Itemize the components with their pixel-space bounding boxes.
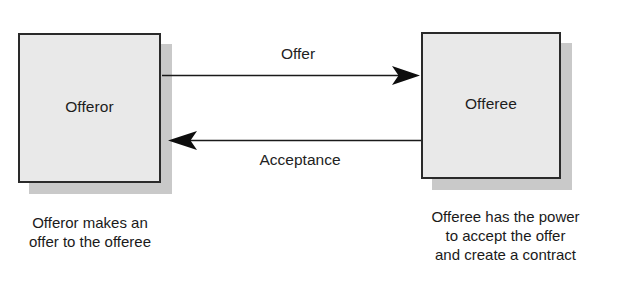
acceptance-arrow-head <box>168 131 197 150</box>
acceptance-arrow <box>168 131 421 150</box>
offer-arrow-head <box>392 66 420 85</box>
offeree-caption-line-1: Offeree has the power <box>398 207 613 226</box>
offeree-caption: Offeree has the power to accept the offe… <box>398 207 613 264</box>
offeror-caption-line-2: offer to the offeree <box>0 232 180 251</box>
offeree-caption-line-2: to accept the offer <box>398 226 613 245</box>
acceptance-edge-label: Acceptance <box>228 151 372 169</box>
offeror-box-label: Offeror <box>18 98 161 116</box>
offer-arrow <box>162 66 420 85</box>
offeror-caption-line-1: Offeror makes an <box>0 213 180 232</box>
offeror-caption: Offeror makes an offer to the offeree <box>0 213 180 251</box>
offer-edge-label: Offer <box>238 45 358 63</box>
offeree-caption-line-3: and create a contract <box>398 245 613 264</box>
contract-formation-diagram: Offeror Offeree Offer Acceptance Offeror… <box>0 0 617 298</box>
offeree-box-label: Offeree <box>421 95 561 113</box>
